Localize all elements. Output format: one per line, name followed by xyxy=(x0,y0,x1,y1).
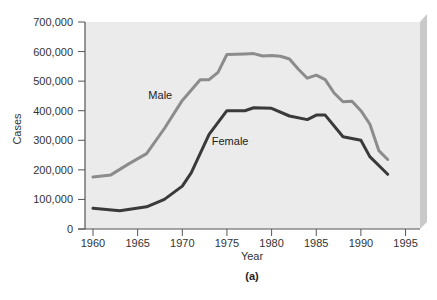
series-male-label: Male xyxy=(148,89,172,101)
x-tick-label: 1975 xyxy=(215,237,239,249)
x-tick-label: 1970 xyxy=(170,237,194,249)
y-axis-title: Cases xyxy=(11,113,23,145)
x-tick-label: 1960 xyxy=(81,237,105,249)
x-tick-label: 1995 xyxy=(393,237,417,249)
y-tick-label: 300,000 xyxy=(33,134,73,146)
plot-side-shade xyxy=(420,14,427,229)
y-tick-label: 200,000 xyxy=(33,164,73,176)
y-tick-label: 500,000 xyxy=(33,75,73,87)
x-tick-label: 1980 xyxy=(259,237,283,249)
x-tick-label: 1990 xyxy=(349,237,373,249)
y-tick-label: 400,000 xyxy=(33,105,73,117)
series-female-label: Female xyxy=(212,135,249,147)
y-tick-label: 100,000 xyxy=(33,193,73,205)
x-tick-label: 1965 xyxy=(125,237,149,249)
y-tick-label: 0 xyxy=(67,223,73,235)
line-chart: 0100,000200,000300,000400,000500,000600,… xyxy=(0,0,437,300)
y-tick-label: 700,000 xyxy=(33,16,73,28)
y-tick-label: 600,000 xyxy=(33,46,73,58)
figure-caption: (a) xyxy=(245,270,259,282)
x-tick-label: 1985 xyxy=(304,237,328,249)
x-axis-title: Year xyxy=(241,250,264,262)
